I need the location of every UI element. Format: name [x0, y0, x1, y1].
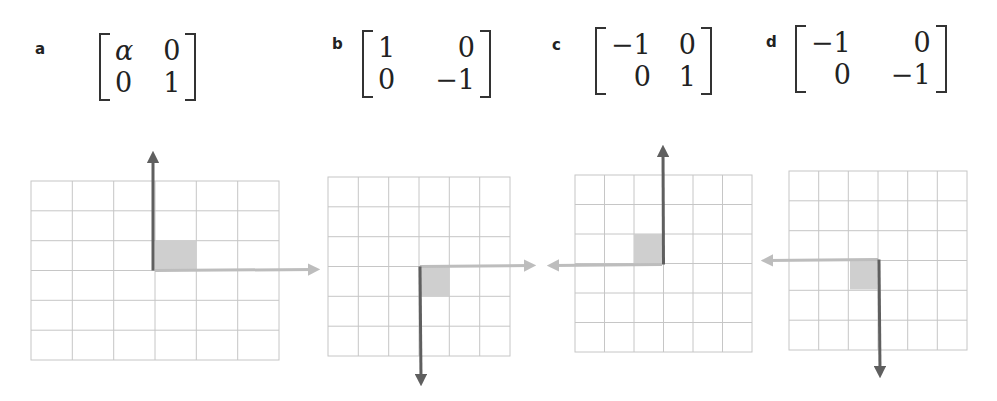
- unit-square-c: [634, 234, 664, 264]
- basis-e1-arrow-d: [767, 260, 878, 261]
- basis-e2-arrow-b: [420, 267, 421, 381]
- basis-e1-arrow-a: [155, 270, 314, 271]
- transformation-figures: [0, 0, 997, 401]
- unit-square-b: [420, 267, 449, 297]
- unit-square-a: [155, 241, 196, 271]
- basis-e2-arrow-d: [879, 260, 880, 373]
- basis-e1-arrow-b: [420, 266, 530, 267]
- basis-e2-arrow-c: [663, 151, 664, 265]
- unit-square-d: [850, 260, 879, 290]
- basis-e1-arrow-c: [553, 265, 662, 266]
